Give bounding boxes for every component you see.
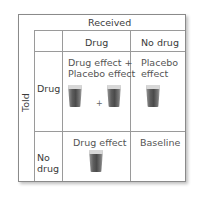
column-header-no-drug: No drug: [141, 37, 179, 48]
row-label-divider: [62, 30, 63, 181]
glass-icon: [68, 85, 82, 107]
plus-sign: +: [96, 99, 103, 108]
glass-icon: [89, 150, 103, 172]
row-label-drug: Drug: [37, 83, 60, 94]
cell-drug-nodrug-line1: Placebo: [141, 57, 178, 68]
cell-nodrug-drug-text: Drug effect: [73, 137, 126, 148]
row-label-drug-2: drug: [37, 163, 59, 174]
received-header-divider: [34, 30, 185, 31]
received-header: Received: [88, 17, 131, 28]
row-divider: [34, 131, 185, 132]
cell-drug-drug-line2: Placebo effect: [68, 68, 135, 79]
cell-nodrug-nodrug-text: Baseline: [140, 137, 180, 148]
glass-icon: [146, 85, 160, 107]
cell-drug-nodrug-line2: effect: [141, 68, 168, 79]
column-header-divider: [34, 51, 185, 52]
cell-drug-drug-line1: Drug effect +: [68, 57, 132, 68]
column-header-drug: Drug: [85, 37, 108, 48]
told-column-divider: [34, 30, 35, 181]
row-label-no: No: [37, 152, 50, 163]
told-header: Told: [20, 93, 31, 112]
glass-icon: [107, 85, 121, 107]
column-divider: [130, 30, 131, 181]
